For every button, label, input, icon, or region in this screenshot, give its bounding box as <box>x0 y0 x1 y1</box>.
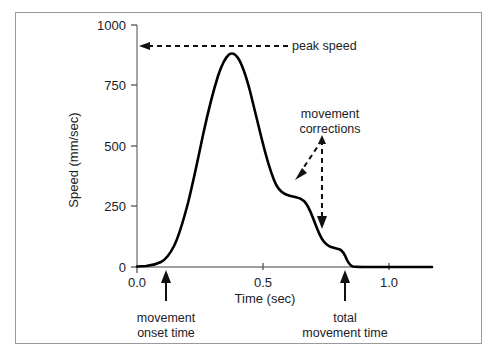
total-movement-time-annotation: total movement time <box>302 270 387 340</box>
total-movement-arrowhead <box>340 270 350 283</box>
y-tick-label-500: 500 <box>104 139 126 154</box>
corrections-vertical-arrowhead <box>317 216 327 229</box>
movement-corrections-annotation: movement corrections <box>295 107 361 229</box>
y-tick-label-1000: 1000 <box>97 18 126 33</box>
x-tick-label-0-0: 0.0 <box>128 275 146 290</box>
peak-speed-annotation: peak speed <box>139 39 357 53</box>
axes-group <box>131 25 432 273</box>
corrections-diagonal-dashed-line <box>302 140 322 170</box>
corrections-diagonal-arrowhead <box>295 168 307 180</box>
x-tick-label-1-0: 1.0 <box>380 275 398 290</box>
movement-onset-arrowhead <box>161 270 171 283</box>
x-axis-title: Time (sec) <box>235 291 296 306</box>
y-tick-labels: 1000 750 500 250 0 <box>97 18 126 275</box>
y-axis-title: Speed (mm/sec) <box>66 112 81 207</box>
peak-speed-label: peak speed <box>292 39 357 53</box>
x-tick-label-0-5: 0.5 <box>254 275 272 290</box>
figure-root: 1000 750 500 250 0 0.0 0.5 1.0 Speed (mm… <box>0 0 498 359</box>
movement-onset-label-line2: onset time <box>137 326 195 340</box>
y-tick-label-250: 250 <box>104 199 126 214</box>
y-tick-label-750: 750 <box>104 78 126 93</box>
total-movement-label-line2: movement time <box>302 326 387 340</box>
speed-time-chart: 1000 750 500 250 0 0.0 0.5 1.0 Speed (mm… <box>0 0 498 359</box>
peak-speed-arrowhead <box>139 42 150 50</box>
corrections-vertical-top-arrowhead <box>318 135 326 144</box>
y-tick-label-0: 0 <box>119 260 126 275</box>
movement-onset-label-line1: movement <box>137 311 196 325</box>
total-movement-label-line1: total <box>333 311 357 325</box>
speed-profile-curve <box>137 54 432 267</box>
movement-corrections-label-line2: corrections <box>299 122 360 136</box>
movement-corrections-label-line1: movement <box>301 107 360 121</box>
